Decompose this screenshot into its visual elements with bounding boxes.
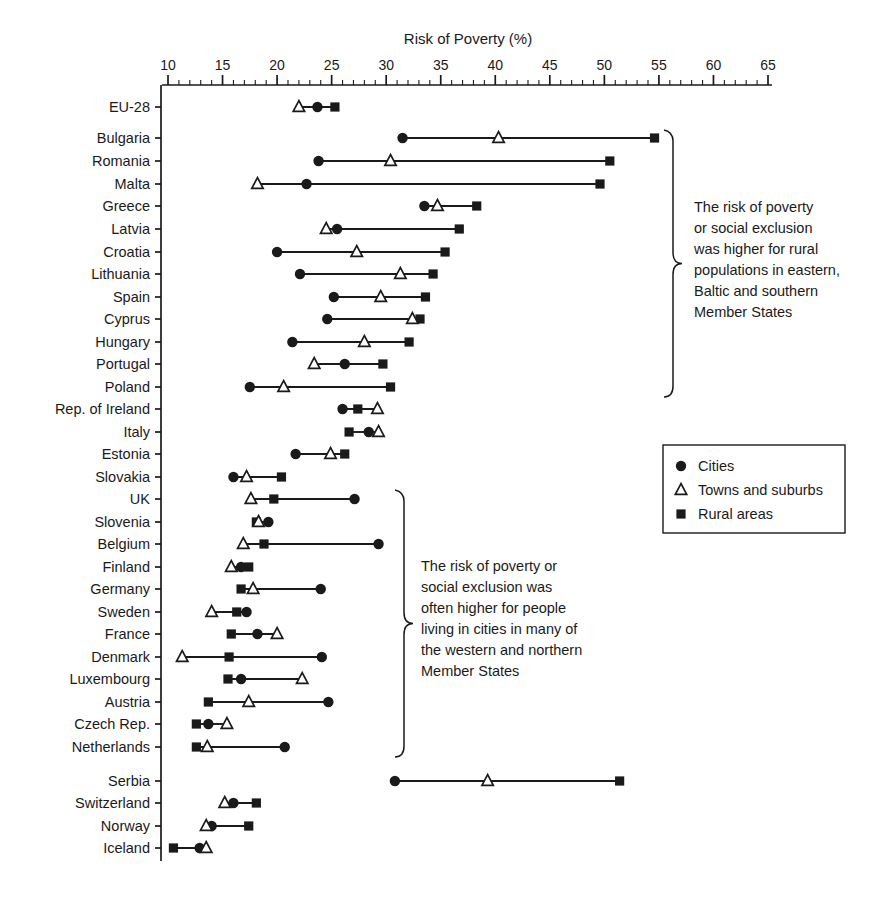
- marker-towns-25[interactable]: [296, 673, 307, 684]
- marker-rural-7[interactable]: [428, 269, 437, 278]
- marker-cities-27[interactable]: [203, 719, 213, 729]
- marker-towns-14[interactable]: [373, 426, 384, 437]
- marker-cities-28[interactable]: [280, 742, 290, 752]
- marker-rural-1[interactable]: [650, 133, 659, 142]
- marker-rural-28[interactable]: [192, 742, 201, 751]
- marker-rural-19[interactable]: [259, 539, 268, 548]
- category-label-cyprus: Cyprus: [104, 311, 150, 327]
- marker-towns-4[interactable]: [432, 200, 443, 211]
- marker-towns-3[interactable]: [252, 178, 263, 189]
- marker-rural-13[interactable]: [353, 404, 362, 413]
- marker-towns-27[interactable]: [221, 718, 232, 729]
- marker-towns-20[interactable]: [226, 561, 237, 572]
- marker-towns-24[interactable]: [176, 651, 187, 662]
- category-label-rep-of-ireland: Rep. of Ireland: [55, 401, 150, 417]
- legend-marker-cities[interactable]: [676, 461, 686, 471]
- chart-canvas: Risk of Poverty (%)101520253035404550556…: [0, 0, 892, 902]
- marker-rural-25[interactable]: [223, 674, 232, 683]
- marker-rural-23[interactable]: [227, 629, 236, 638]
- marker-cities-0[interactable]: [312, 102, 322, 112]
- marker-rural-22[interactable]: [232, 607, 241, 616]
- marker-rural-15[interactable]: [340, 449, 349, 458]
- marker-cities-5[interactable]: [332, 224, 342, 234]
- marker-rural-8[interactable]: [421, 292, 430, 301]
- marker-towns-16[interactable]: [241, 471, 252, 482]
- category-label-greece: Greece: [102, 198, 150, 214]
- marker-rural-6[interactable]: [440, 247, 449, 256]
- marker-cities-8[interactable]: [329, 292, 339, 302]
- marker-cities-13[interactable]: [337, 404, 347, 414]
- marker-rural-14[interactable]: [344, 427, 353, 436]
- marker-cities-9[interactable]: [322, 314, 332, 324]
- marker-cities-7[interactable]: [295, 269, 305, 279]
- marker-rural-17[interactable]: [269, 494, 278, 503]
- marker-rural-16[interactable]: [277, 472, 286, 481]
- category-label-lithuania: Lithuania: [91, 266, 151, 282]
- x-tick-label: 20: [269, 57, 285, 73]
- marker-cities-22[interactable]: [241, 607, 251, 617]
- marker-towns-2[interactable]: [385, 155, 396, 166]
- marker-rural-31[interactable]: [244, 821, 253, 830]
- marker-cities-12[interactable]: [245, 382, 255, 392]
- marker-cities-10[interactable]: [287, 337, 297, 347]
- marker-rural-27[interactable]: [192, 719, 201, 728]
- marker-towns-29[interactable]: [482, 775, 493, 786]
- marker-towns-19[interactable]: [238, 538, 249, 549]
- marker-cities-23[interactable]: [252, 629, 262, 639]
- marker-cities-11[interactable]: [340, 359, 350, 369]
- marker-rural-10[interactable]: [404, 337, 413, 346]
- marker-towns-23[interactable]: [271, 628, 282, 639]
- marker-towns-28[interactable]: [202, 741, 213, 752]
- marker-towns-13[interactable]: [372, 403, 383, 414]
- marker-cities-1[interactable]: [397, 133, 407, 143]
- marker-cities-6[interactable]: [272, 247, 282, 257]
- marker-towns-22[interactable]: [206, 606, 217, 617]
- marker-rural-2[interactable]: [605, 156, 614, 165]
- marker-towns-10[interactable]: [359, 336, 370, 347]
- marker-rural-29[interactable]: [615, 776, 624, 785]
- marker-cities-29[interactable]: [390, 776, 400, 786]
- marker-cities-15[interactable]: [290, 449, 300, 459]
- marker-rural-3[interactable]: [595, 179, 604, 188]
- category-label-croatia: Croatia: [103, 244, 151, 260]
- marker-cities-24[interactable]: [317, 652, 327, 662]
- marker-towns-15[interactable]: [325, 448, 336, 459]
- marker-towns-7[interactable]: [395, 268, 406, 279]
- marker-towns-26[interactable]: [243, 696, 254, 707]
- marker-rural-26[interactable]: [204, 697, 213, 706]
- marker-rural-11[interactable]: [378, 359, 387, 368]
- x-tick-label: 40: [487, 57, 503, 73]
- marker-cities-25[interactable]: [236, 674, 246, 684]
- marker-rural-30[interactable]: [252, 798, 261, 807]
- marker-rural-4[interactable]: [472, 201, 481, 210]
- x-tick-label: 55: [651, 57, 667, 73]
- marker-cities-19[interactable]: [373, 539, 383, 549]
- marker-towns-11[interactable]: [308, 358, 319, 369]
- marker-towns-21[interactable]: [247, 583, 258, 594]
- category-label-luxembourg: Luxembourg: [69, 671, 150, 687]
- marker-towns-1[interactable]: [493, 132, 504, 143]
- marker-cities-17[interactable]: [349, 494, 359, 504]
- marker-cities-26[interactable]: [323, 697, 333, 707]
- marker-towns-12[interactable]: [278, 381, 289, 392]
- marker-towns-5[interactable]: [320, 223, 331, 234]
- marker-rural-32[interactable]: [169, 843, 178, 852]
- marker-rural-0[interactable]: [330, 102, 339, 111]
- marker-cities-21[interactable]: [316, 584, 326, 594]
- annotation-line: Member States: [421, 663, 519, 679]
- legend-marker-rural[interactable]: [676, 509, 685, 518]
- marker-rural-5[interactable]: [455, 224, 464, 233]
- marker-cities-16[interactable]: [228, 472, 238, 482]
- marker-rural-24[interactable]: [224, 652, 233, 661]
- category-label-finland: Finland: [102, 559, 150, 575]
- marker-cities-3[interactable]: [301, 179, 311, 189]
- marker-rural-12[interactable]: [386, 382, 395, 391]
- marker-towns-8[interactable]: [375, 291, 386, 302]
- marker-cities-2[interactable]: [313, 156, 323, 166]
- marker-cities-4[interactable]: [419, 201, 429, 211]
- marker-towns-17[interactable]: [245, 493, 256, 504]
- marker-rural-21[interactable]: [236, 584, 245, 593]
- marker-towns-0[interactable]: [293, 101, 304, 112]
- marker-towns-6[interactable]: [351, 246, 362, 257]
- marker-rural-20[interactable]: [244, 562, 253, 571]
